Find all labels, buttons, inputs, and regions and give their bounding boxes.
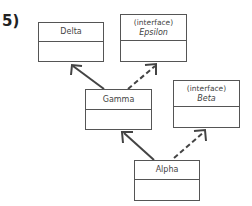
class-name-compartment: Alpha bbox=[135, 161, 199, 180]
class-name-compartment: Gamma bbox=[86, 90, 151, 110]
stereotype-label: (interface) bbox=[174, 84, 239, 94]
arrow-alpha-to-gamma bbox=[122, 132, 154, 160]
arrow-gamma-to-delta bbox=[71, 65, 104, 89]
class-name-compartment: Delta bbox=[39, 23, 103, 42]
class-name: Epsilon bbox=[121, 28, 186, 38]
class-name: Gamma bbox=[86, 95, 151, 105]
class-name: Alpha bbox=[135, 165, 199, 175]
arrow-alpha-to-beta bbox=[174, 130, 206, 158]
class-name-compartment: (interface) Beta bbox=[174, 81, 239, 107]
arrow-gamma-to-epsilon bbox=[128, 64, 156, 89]
class-name-compartment: (interface) Epsilon bbox=[121, 15, 186, 41]
class-name: Beta bbox=[174, 94, 239, 104]
uml-class-diagram: 5) Delta (interface) E bbox=[0, 0, 252, 206]
interface-box-epsilon: (interface) Epsilon bbox=[120, 14, 187, 62]
stereotype-label: (interface) bbox=[121, 18, 186, 28]
class-box-alpha: Alpha bbox=[134, 160, 200, 201]
class-name: Delta bbox=[39, 27, 103, 37]
class-box-delta: Delta bbox=[38, 22, 104, 62]
class-box-gamma: Gamma bbox=[85, 89, 152, 130]
interface-box-beta: (interface) Beta bbox=[173, 80, 240, 128]
